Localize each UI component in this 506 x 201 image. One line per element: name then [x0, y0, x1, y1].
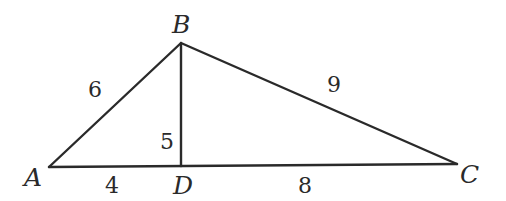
length-label-bd: 5	[160, 129, 174, 154]
length-label-bc: 9	[327, 72, 341, 97]
length-label-ad: 4	[105, 173, 119, 198]
vertex-label-a: A	[22, 163, 42, 192]
length-label-dc: 8	[298, 173, 312, 198]
length-label-ab: 6	[88, 77, 102, 102]
segment-ac	[49, 164, 457, 167]
segment-ab-bc	[49, 43, 457, 167]
vertex-label-c: C	[460, 160, 479, 189]
vertex-label-d: D	[172, 171, 193, 200]
triangle-diagram: B A D C 6 9 5 4 8	[0, 0, 506, 201]
vertex-label-b: B	[171, 10, 190, 39]
